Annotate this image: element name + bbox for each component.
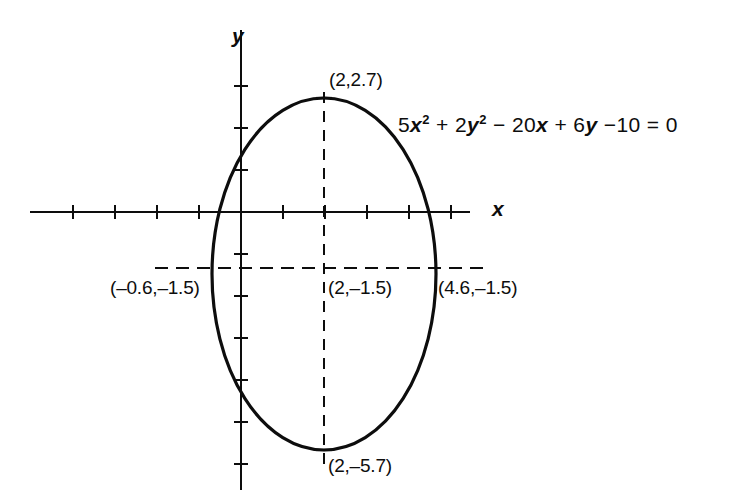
y-axis bbox=[234, 30, 248, 490]
y-axis-label: y bbox=[232, 25, 243, 46]
equation-label: 5x2 + 2y2 − 20x + 6y −10 = 0 bbox=[398, 114, 678, 135]
x-axis bbox=[30, 205, 470, 219]
ellipse-figure: y x (2,2.7) (2,–1.5) (–0.6,–1.5) (4.6,–1… bbox=[0, 0, 749, 501]
right-vertex-label: (4.6,–1.5) bbox=[438, 278, 517, 297]
center-label: (2,–1.5) bbox=[328, 278, 392, 297]
top-vertex-label: (2,2.7) bbox=[329, 70, 383, 89]
left-vertex-label: (–0.6,–1.5) bbox=[110, 278, 200, 297]
equation-content: 5x2 + 2y2 − 20x + 6y −10 = 0 bbox=[398, 113, 678, 136]
bottom-vertex-label: (2,–5.7) bbox=[328, 456, 392, 475]
x-axis-label: x bbox=[492, 198, 503, 219]
